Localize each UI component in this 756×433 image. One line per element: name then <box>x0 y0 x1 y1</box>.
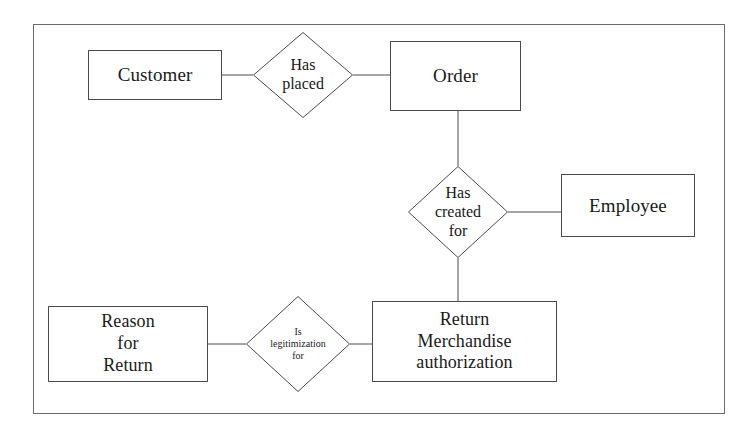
entity-label-employee: Employee <box>589 194 667 217</box>
entity-employee[interactable]: Employee <box>561 174 695 237</box>
relationship-has-placed[interactable]: Has placed <box>253 32 353 118</box>
entity-label-return-merchandise-authorization: Return Merchandise authorization <box>416 309 512 375</box>
er-diagram-canvas: CustomerOrderEmployeeReason for ReturnRe… <box>0 0 756 433</box>
entity-label-customer: Customer <box>118 63 193 86</box>
relationship-has-created-for[interactable]: Has created for <box>408 166 508 258</box>
entity-customer[interactable]: Customer <box>88 50 222 100</box>
entity-label-order: Order <box>433 64 478 87</box>
entity-reason-for-return[interactable]: Reason for Return <box>48 306 208 382</box>
diamond-shape-is-legitimization-for <box>246 296 350 392</box>
diamond-shape-has-placed <box>253 32 353 118</box>
diamond-shape-has-created-for <box>408 166 508 258</box>
entity-label-reason-for-return: Reason for Return <box>101 311 155 377</box>
relationship-is-legitimization-for[interactable]: Is legitimization for <box>246 296 350 392</box>
entity-order[interactable]: Order <box>390 41 521 111</box>
entity-return-merchandise-authorization[interactable]: Return Merchandise authorization <box>372 301 557 382</box>
